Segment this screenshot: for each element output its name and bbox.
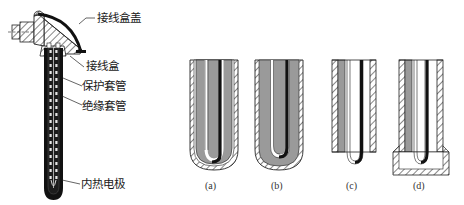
variant-d-diagram [393, 60, 449, 175]
label-variant-b: (b) [271, 180, 283, 191]
variant-b-diagram [255, 60, 303, 170]
variant-c-diagram [332, 60, 376, 164]
label-variant-d: (d) [413, 180, 425, 191]
callout-protective-sleeve: 保护套管 [82, 80, 126, 92]
callout-terminal-box: 接线盒 [86, 60, 119, 72]
diagram-canvas [0, 0, 464, 205]
callout-terminal-box-cover: 接线盒盖 [97, 12, 141, 24]
variant-a-diagram [190, 60, 238, 170]
label-variant-a: (a) [205, 180, 216, 191]
callout-inner-thermal-electrode: 内热电极 [81, 178, 125, 190]
label-variant-c: (c) [346, 180, 357, 191]
callout-insulating-sleeve: 绝缘套管 [82, 100, 126, 112]
